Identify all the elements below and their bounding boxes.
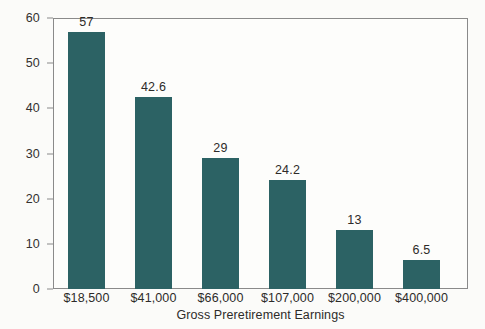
bar-value-label: 29: [202, 141, 239, 155]
bar-value-label: 6.5: [403, 243, 440, 257]
y-tick-label: 50: [26, 56, 40, 70]
x-tick-label: $41,000: [120, 291, 187, 305]
y-tick-label: 0: [33, 282, 40, 296]
bar[interactable]: [68, 32, 105, 289]
bar-group[interactable]: 24.2: [254, 18, 321, 289]
x-tick-label: $400,000: [388, 291, 455, 305]
y-tick-label: 30: [26, 147, 40, 161]
bar[interactable]: [269, 180, 306, 289]
bar-value-label: 13: [336, 213, 373, 227]
y-tick-label: 60: [26, 11, 40, 25]
bar[interactable]: [135, 97, 172, 289]
x-tick-label: $66,000: [187, 291, 254, 305]
x-tick-label: $200,000: [321, 291, 388, 305]
y-tick-label: 10: [26, 237, 40, 251]
bars-layer: 5742.62924.2136.5: [53, 18, 468, 289]
x-tick-label: $107,000: [254, 291, 321, 305]
x-tick-label: $18,500: [53, 291, 120, 305]
bar-group[interactable]: 13: [321, 18, 388, 289]
bar-group[interactable]: 57: [53, 18, 120, 289]
bar-group[interactable]: 42.6: [120, 18, 187, 289]
y-tick-label: 20: [26, 192, 40, 206]
bar[interactable]: [403, 260, 440, 289]
y-axis: 0102030405060: [0, 0, 53, 329]
bar[interactable]: [336, 230, 373, 289]
bar-chart: 0102030405060 5742.62924.2136.5 $18,500$…: [0, 0, 485, 329]
x-axis-title: Gross Preretirement Earnings: [53, 308, 468, 322]
bar-group[interactable]: 29: [187, 18, 254, 289]
y-tick-label: 40: [26, 101, 40, 115]
bar[interactable]: [202, 158, 239, 289]
bar-value-label: 42.6: [135, 80, 172, 94]
bar-value-label: 57: [68, 15, 105, 29]
bar-group[interactable]: 6.5: [388, 18, 455, 289]
bar-value-label: 24.2: [269, 163, 306, 177]
